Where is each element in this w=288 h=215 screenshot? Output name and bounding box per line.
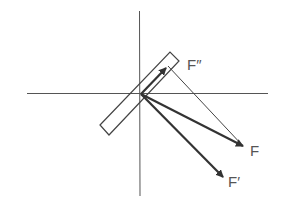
force-diagram [0,0,288,215]
vector-F [141,94,243,146]
vector-F-double-prime [141,68,166,94]
label-F-double-prime: F″ [187,57,201,72]
vector-F-prime [141,94,223,177]
label-F-prime: F′ [228,174,240,189]
label-F: F [250,143,259,158]
